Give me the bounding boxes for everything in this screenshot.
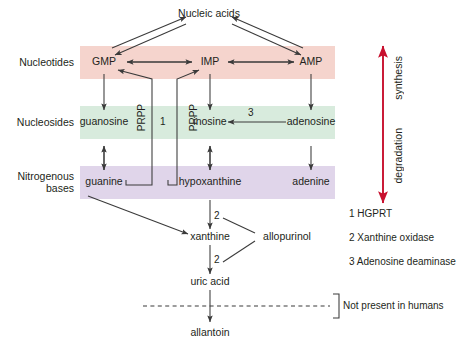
node-imp[interactable]: IMP [201, 56, 220, 68]
row-label-nucleotides: Nucleotides [0, 56, 74, 68]
node-xanthine[interactable]: xanthine [190, 231, 230, 243]
node-guanine[interactable]: guanine [85, 176, 122, 188]
edge-label-ada-number: 3 [248, 107, 254, 118]
node-guanosine[interactable]: guanosine [80, 116, 128, 128]
node-amp[interactable]: AMP [300, 56, 323, 68]
row-label-line2: bases [0, 182, 74, 194]
node-adenine[interactable]: adenine [292, 176, 329, 188]
edge-label-prpp-left: PRPP [136, 104, 147, 131]
node-adenosine[interactable]: adenosine [287, 116, 335, 128]
row-label-line1: Nitrogenous [0, 170, 74, 182]
annotation-not-present-in-humans: Not present in humans [343, 300, 444, 311]
node-uric-acid[interactable]: uric acid [190, 276, 229, 288]
edge-label-prpp-right: PRPP [188, 104, 199, 131]
row-label-nucleosides: Nucleosides [0, 116, 74, 128]
node-allopurinol[interactable]: allopurinol [263, 231, 311, 243]
edge-label-xo-number-upper: 2 [214, 210, 220, 221]
node-nucleic-acids[interactable]: Nucleic acids [178, 8, 240, 20]
edge-label-xo-number-lower: 2 [214, 254, 220, 265]
node-hypoxanthine[interactable]: hypoxanthine [179, 176, 241, 188]
axis-label-degradation: degradation [392, 128, 404, 183]
legend-item-3: 3 Adenosine deaminase [349, 256, 456, 267]
edge-label-hgprt-number: 1 [160, 116, 166, 127]
row-label-nitrogenous-bases: Nitrogenous bases [0, 170, 74, 194]
axis-label-synthesis: synthesis [392, 56, 404, 100]
node-allantoin[interactable]: allantoin [190, 327, 229, 339]
pathway-diagram: Nucleotides Nucleosides Nitrogenous base… [0, 0, 462, 350]
legend-item-1: 1 HGPRT [349, 208, 392, 219]
node-gmp[interactable]: GMP [92, 56, 116, 68]
legend-item-2: 2 Xanthine oxidase [349, 232, 434, 243]
